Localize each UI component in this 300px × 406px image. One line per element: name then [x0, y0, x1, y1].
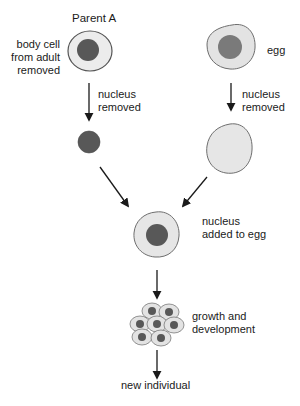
label-nucleus-added: nucleus added to egg [202, 215, 266, 241]
label-egg: egg [267, 44, 285, 57]
isolated-nucleus [78, 131, 100, 153]
label-nucleus-removed-left-line1: nucleus [98, 88, 141, 101]
label-nucleus-added-line2: added to egg [202, 228, 266, 241]
embryo-cluster [130, 303, 184, 346]
label-body-cell-line1: body cell [0, 38, 60, 51]
label-growth-line2: development [192, 323, 255, 336]
label-growth-line1: growth and [192, 310, 255, 323]
egg-cell [207, 24, 255, 69]
reconstructed-egg [134, 212, 179, 257]
label-nucleus-removed-right-line2: removed [242, 101, 285, 114]
label-body-cell-line2: from adult [0, 51, 60, 64]
label-body-cell: body cell from adult removed [0, 38, 60, 77]
label-nucleus-removed-left-line2: removed [98, 101, 141, 114]
enucleated-egg [207, 124, 252, 173]
label-nucleus-removed-right: nucleus removed [242, 88, 285, 114]
body-cell [68, 31, 112, 71]
arrow-egg-to-combined [183, 177, 207, 206]
label-new-individual: new individual [121, 379, 190, 392]
label-nucleus-added-line1: nucleus [202, 215, 266, 228]
label-parent-a: Parent A [72, 12, 116, 25]
label-nucleus-removed-left: nucleus removed [98, 88, 141, 114]
label-nucleus-removed-right-line1: nucleus [242, 88, 285, 101]
label-body-cell-line3: removed [0, 64, 60, 77]
arrow-nucleus-to-egg [100, 167, 128, 206]
label-growth: growth and development [192, 310, 255, 336]
